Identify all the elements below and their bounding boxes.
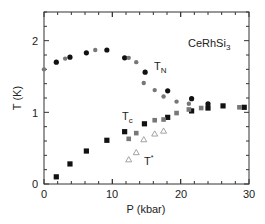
- data-point: [54, 60, 59, 65]
- data-point: [242, 105, 247, 110]
- data-point: [104, 138, 109, 143]
- y-tick-label-2: 2: [32, 35, 38, 47]
- data-point: [104, 47, 109, 52]
- y-axis-title: T (K): [11, 86, 23, 110]
- data-point: [142, 81, 146, 85]
- x-tick-label-0: 0: [41, 188, 47, 200]
- data-point: [84, 148, 89, 153]
- data-point: [205, 105, 210, 110]
- x-tick-label-20: 20: [175, 188, 187, 200]
- x-tick-label-30: 30: [243, 188, 255, 200]
- data-point: [134, 60, 138, 64]
- data-point: [93, 48, 97, 52]
- data-point: [237, 105, 242, 110]
- data-point: [122, 55, 127, 60]
- data-point: [54, 174, 59, 179]
- data-point: [127, 56, 131, 60]
- data-point: [67, 161, 72, 166]
- data-point: [63, 56, 67, 60]
- data-point: [153, 88, 157, 92]
- data-point: [133, 149, 139, 154]
- data-point: [122, 129, 127, 134]
- data-point: [42, 67, 46, 71]
- data-point: [141, 137, 147, 142]
- data-point: [174, 99, 178, 103]
- data-point: [161, 128, 167, 133]
- data-point: [161, 94, 165, 98]
- data-point: [189, 96, 194, 101]
- y-tick-label-1: 1: [32, 107, 38, 119]
- data-point: [67, 55, 72, 60]
- data-point: [126, 137, 131, 142]
- tn-label: TN: [154, 60, 167, 75]
- data-point: [142, 121, 147, 126]
- data-point: [187, 107, 192, 112]
- data-point: [143, 70, 148, 75]
- data-point: [152, 118, 157, 123]
- data-point: [134, 131, 139, 136]
- x-axis-title: P (kbar): [127, 203, 166, 215]
- x-tick-label-10: 10: [106, 188, 118, 200]
- compound-label: CeRhSi3: [188, 37, 231, 52]
- data-point: [187, 102, 191, 106]
- data-point: [161, 117, 166, 122]
- data-point: [165, 88, 170, 93]
- data-point: [126, 157, 132, 162]
- data-point: [220, 103, 225, 108]
- data-point: [174, 111, 179, 116]
- tstar-label: T*: [144, 154, 154, 167]
- tc-label: Tc: [122, 110, 133, 125]
- data-point: [84, 50, 89, 55]
- phase-diagram-chart: 0 10 20 30 0 1 2 P (kbar) T (K) CeRhSi3 …: [0, 0, 265, 224]
- data-point: [152, 131, 158, 136]
- data-point: [199, 106, 204, 111]
- y-tick-label-0: 0: [32, 178, 38, 190]
